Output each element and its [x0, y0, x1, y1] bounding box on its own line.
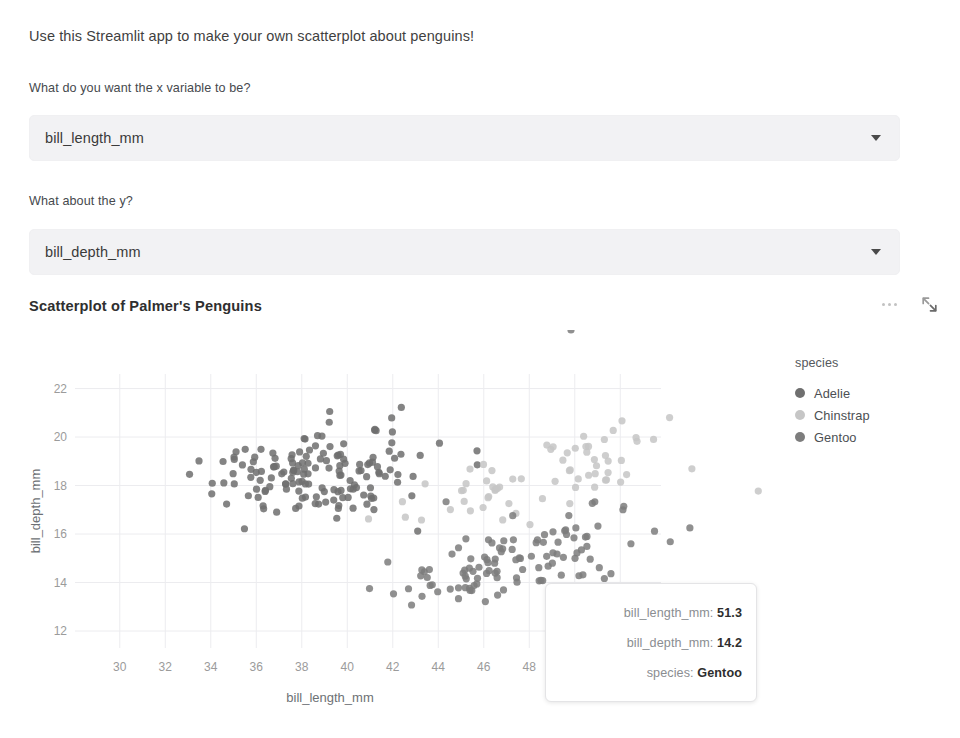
- data-point: [447, 506, 454, 513]
- data-point: [526, 521, 533, 528]
- data-point: [270, 463, 277, 470]
- data-point: [387, 466, 394, 473]
- data-point: [370, 506, 377, 513]
- data-point: [394, 471, 401, 478]
- data-point: [505, 500, 512, 507]
- x-axis-label: bill_length_mm: [286, 690, 373, 705]
- data-point: [374, 463, 381, 470]
- data-point: [543, 441, 550, 448]
- data-point: [418, 516, 425, 523]
- data-point: [208, 490, 215, 497]
- data-point: [571, 555, 578, 562]
- data-point: [549, 528, 556, 535]
- data-point: [186, 471, 193, 478]
- legend-item[interactable]: Chinstrap: [795, 404, 870, 426]
- data-point: [273, 509, 280, 516]
- x-variable-label: What do you want the x variable to be?: [29, 80, 251, 97]
- data-point: [319, 484, 326, 491]
- data-point: [479, 504, 486, 511]
- more-options-icon[interactable]: [880, 299, 899, 310]
- data-point: [463, 575, 470, 582]
- data-point: [594, 523, 601, 530]
- data-point: [278, 470, 285, 477]
- data-point: [250, 458, 257, 465]
- data-point: [301, 435, 308, 442]
- legend: species AdelieChinstrapGentoo: [795, 356, 870, 448]
- data-point: [257, 477, 264, 484]
- tooltip-key: bill_length_mm:: [624, 606, 717, 620]
- chevron-down-icon: [871, 135, 881, 141]
- y-variable-label: What about the y?: [29, 193, 133, 210]
- data-point: [466, 465, 473, 472]
- data-point: [458, 487, 465, 494]
- y-variable-select[interactable]: bill_depth_mm: [29, 229, 900, 275]
- x-variable-select[interactable]: bill_length_mm: [29, 115, 900, 161]
- data-point: [447, 585, 454, 592]
- data-point: [337, 487, 344, 494]
- tooltip-row: bill_length_mm: 51.3: [560, 598, 742, 628]
- data-point: [579, 571, 586, 578]
- data-point: [323, 457, 330, 464]
- data-point: [288, 455, 295, 462]
- data-point: [302, 493, 309, 500]
- legend-item-label: Gentoo: [814, 430, 857, 445]
- data-point: [496, 544, 503, 551]
- svg-text:46: 46: [477, 660, 491, 674]
- data-point: [535, 564, 542, 571]
- x-variable-value: bill_length_mm: [45, 130, 144, 146]
- legend-item[interactable]: Adelie: [795, 382, 870, 404]
- data-point: [585, 472, 592, 479]
- data-point: [596, 564, 603, 571]
- data-point: [474, 461, 481, 468]
- svg-text:32: 32: [159, 660, 173, 674]
- data-point: [494, 485, 501, 492]
- data-point: [483, 570, 490, 577]
- data-point: [607, 570, 614, 577]
- data-point: [312, 442, 319, 449]
- legend-item[interactable]: Gentoo: [795, 426, 870, 448]
- data-point: [408, 601, 415, 608]
- svg-text:12: 12: [54, 624, 68, 638]
- data-point: [510, 536, 517, 543]
- tooltip-key: species:: [647, 666, 698, 680]
- data-point: [564, 449, 571, 456]
- tooltip-value: 14.2: [717, 636, 742, 650]
- data-point: [241, 525, 248, 532]
- data-points: [186, 330, 762, 610]
- chart-title: Scatterplot of Palmer's Penguins: [29, 298, 262, 314]
- data-point: [335, 505, 342, 512]
- svg-text:42: 42: [386, 660, 400, 674]
- data-point: [350, 486, 357, 493]
- data-point: [686, 524, 693, 531]
- data-point: [418, 593, 425, 600]
- data-point: [388, 414, 395, 421]
- legend-title: species: [795, 356, 870, 370]
- legend-item-label: Adelie: [814, 386, 850, 401]
- data-point: [601, 436, 608, 443]
- data-point: [312, 464, 319, 471]
- data-point: [322, 498, 329, 505]
- data-point: [469, 568, 476, 575]
- data-point: [268, 474, 275, 481]
- data-point: [219, 458, 226, 465]
- data-point: [565, 512, 572, 519]
- data-point: [492, 569, 499, 576]
- data-point: [513, 579, 520, 586]
- data-point: [345, 494, 352, 501]
- legend-swatch-icon: [795, 388, 805, 398]
- data-point: [367, 484, 374, 491]
- data-point: [306, 446, 313, 453]
- data-point: [591, 484, 598, 491]
- data-point: [755, 487, 762, 494]
- data-point: [591, 456, 598, 463]
- data-point: [366, 585, 373, 592]
- tooltip-row: bill_depth_mm: 14.2: [560, 628, 742, 658]
- data-point: [245, 492, 252, 499]
- fullscreen-expand-icon[interactable]: [921, 296, 938, 313]
- data-point: [518, 475, 525, 482]
- data-point: [543, 553, 550, 560]
- data-point: [356, 461, 363, 468]
- data-point: [230, 470, 237, 477]
- tooltip-row: species: Gentoo: [560, 658, 742, 688]
- y-axis-ticks: 121416182022: [54, 382, 68, 638]
